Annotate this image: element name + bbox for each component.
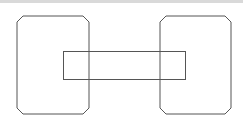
right-box xyxy=(160,16,231,114)
diagram-canvas xyxy=(0,0,243,126)
connector-rect xyxy=(64,52,186,80)
left-box xyxy=(17,16,89,114)
